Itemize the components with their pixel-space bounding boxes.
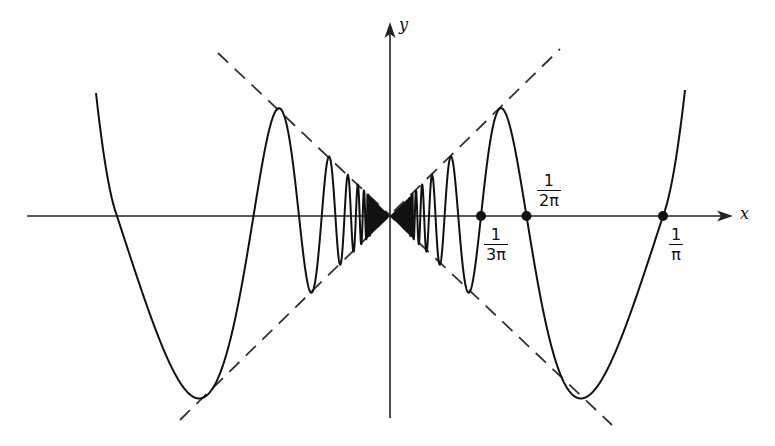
- y-axis-label: y: [399, 15, 408, 34]
- dense-oscillation-right: [390, 193, 414, 239]
- numerator: 1: [669, 226, 683, 243]
- label-one-over-2pi: 1 2π: [537, 172, 561, 209]
- figure-canvas: y x 1 3π 1 2π 1 π: [0, 0, 775, 446]
- point-one-over-pi: [658, 211, 668, 221]
- numerator: 1: [489, 226, 503, 243]
- point-one-over-3pi: [476, 211, 486, 221]
- dense-oscillation-left: [366, 193, 390, 239]
- point-one-over-2pi: [522, 211, 532, 221]
- x-axis-label: x: [740, 204, 749, 223]
- label-one-over-pi: 1 π: [669, 226, 683, 263]
- denominator: 3π: [484, 246, 508, 263]
- label-one-over-3pi: 1 3π: [484, 226, 508, 263]
- numerator: 1: [542, 172, 556, 189]
- denominator: 2π: [537, 192, 561, 209]
- denominator: π: [669, 246, 683, 263]
- plot-svg: [0, 0, 775, 446]
